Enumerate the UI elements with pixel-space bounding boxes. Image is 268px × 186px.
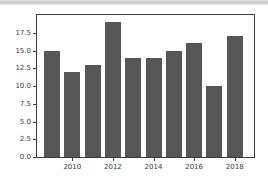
y-tick-label: 7.5 [7,100,31,109]
x-tick-mark [194,158,195,161]
y-tick-label: 17.5 [7,29,31,38]
y-tick-mark [33,86,36,87]
y-tick-mark [33,122,36,123]
bar [206,86,222,157]
x-tick-label: 2010 [57,163,87,172]
y-tick-label: 2.5 [7,135,31,144]
x-tick-label: 2012 [98,163,128,172]
x-tick-label: 2018 [220,163,250,172]
y-tick-label: 5.0 [7,118,31,127]
bar [125,58,141,157]
bar [146,58,162,157]
x-tick-mark [113,158,114,161]
bar [186,43,202,157]
y-tick-label: 15.0 [7,47,31,56]
bar-chart-figure: 0.02.55.07.510.012.515.017.5201020122014… [0,0,268,186]
bar [64,72,80,157]
y-tick-mark [33,157,36,158]
plot-area [36,14,255,158]
bar [85,65,101,157]
bar [166,51,182,158]
x-tick-label: 2014 [139,163,169,172]
x-tick-mark [72,158,73,161]
y-tick-label: 12.5 [7,64,31,73]
y-tick-mark [33,104,36,105]
y-tick-label: 0.0 [7,153,31,162]
y-tick-label: 10.0 [7,82,31,91]
bar [44,51,60,158]
bar [227,36,243,157]
y-tick-mark [33,51,36,52]
y-tick-mark [33,68,36,69]
y-tick-mark [33,139,36,140]
x-tick-label: 2016 [179,163,209,172]
x-tick-mark [235,158,236,161]
screenshot-root: 0.02.55.07.510.012.515.017.5201020122014… [0,0,268,186]
y-tick-mark [33,33,36,34]
x-tick-mark [154,158,155,161]
bar [105,22,121,157]
